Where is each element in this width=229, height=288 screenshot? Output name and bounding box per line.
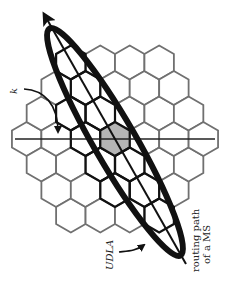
udla-hex-cell-diagram: k UDLA routing path of a MS bbox=[0, 0, 229, 288]
routing-path-label-line2: of a MS bbox=[201, 225, 212, 264]
udla-pointer-arrow-icon bbox=[119, 245, 144, 252]
k-label: k bbox=[8, 88, 19, 94]
routing-path-annotation: routing path of a MS bbox=[190, 208, 212, 272]
udla-annotation: UDLA bbox=[104, 240, 144, 270]
udla-label: UDLA bbox=[104, 240, 115, 270]
routing-path-label-line1: routing path bbox=[190, 208, 201, 272]
